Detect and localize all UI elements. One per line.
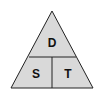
label-distance: D xyxy=(48,36,57,50)
formula-triangle: D S T xyxy=(0,0,96,95)
label-speed: S xyxy=(32,67,40,81)
label-time: T xyxy=(64,67,72,81)
